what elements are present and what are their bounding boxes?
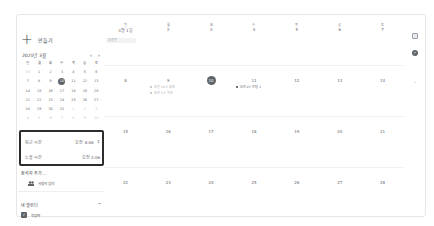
mini-date[interactable]: 25	[68, 97, 79, 103]
mini-date[interactable]: 11	[68, 78, 79, 84]
mini-date[interactable]: 17	[56, 88, 67, 94]
dot-icon[interactable]: •	[414, 80, 416, 85]
date-label[interactable]: 3월 1일	[104, 27, 147, 33]
chevron-up-icon[interactable]: ^	[98, 202, 101, 208]
my-calendars-header[interactable]: 내 캘린더 ^	[21, 202, 101, 208]
day-cell[interactable]: 18	[233, 117, 276, 166]
date-label[interactable]: 21	[361, 129, 404, 134]
mini-date[interactable]: 6	[45, 115, 56, 121]
day-cell[interactable]: 22	[104, 168, 147, 217]
day-cell[interactable]: 금 6	[318, 14, 361, 64]
mini-date[interactable]: 31	[56, 106, 67, 112]
mini-date[interactable]: 22	[33, 97, 44, 103]
prev-month-icon[interactable]: ‹	[90, 52, 92, 58]
mini-date[interactable]: 8	[68, 115, 79, 121]
date-label[interactable]: 3	[190, 27, 233, 32]
day-cell[interactable]: 월 2	[147, 14, 190, 64]
date-label[interactable]: 26	[275, 180, 318, 185]
day-cell[interactable]: 25	[233, 168, 276, 217]
square-icon[interactable]	[412, 33, 418, 39]
mini-date[interactable]: 26	[79, 97, 90, 103]
mini-date[interactable]: 1	[68, 106, 79, 112]
date-label[interactable]: 23	[147, 180, 190, 185]
mini-date[interactable]: 24	[56, 97, 67, 103]
create-button[interactable]: + 만들기	[21, 34, 53, 44]
day-cell[interactable]: 12	[275, 66, 318, 115]
day-cell[interactable]: 19	[275, 117, 318, 166]
checkbox-checked-icon[interactable]: ✓	[21, 212, 27, 218]
mini-date[interactable]: 18	[68, 88, 79, 94]
mini-date[interactable]: 30	[45, 106, 56, 112]
date-label[interactable]: 20	[318, 129, 361, 134]
add-attendees-link[interactable]: 참석자 추가...	[21, 170, 46, 176]
mini-date[interactable]: 14	[22, 88, 33, 94]
day-cell[interactable]: 15	[104, 117, 147, 166]
date-label[interactable]: 11	[233, 78, 276, 83]
date-label[interactable]: 6	[318, 27, 361, 32]
date-label[interactable]: 14	[361, 78, 404, 83]
day-cell[interactable]: 17	[190, 117, 233, 166]
day-cell[interactable]: 11 오후 2시 미팅 1	[233, 66, 276, 115]
mini-today-date[interactable]: 10	[58, 78, 65, 85]
day-cell[interactable]: 27	[318, 168, 361, 217]
mini-date[interactable]: 28	[22, 106, 33, 112]
day-cell[interactable]: 24	[190, 168, 233, 217]
day-cell[interactable]: 토 7	[361, 14, 404, 64]
day-cell[interactable]: 13	[318, 66, 361, 115]
day-cell[interactable]: 14	[361, 66, 404, 115]
mini-date[interactable]: 23	[45, 97, 56, 103]
event-item[interactable]: 오후 2시 미팅 1	[233, 85, 276, 89]
mini-date[interactable]: 29	[33, 106, 44, 112]
mini-date[interactable]: 7	[56, 115, 67, 121]
day-cell[interactable]: 16	[147, 117, 190, 166]
day-cell[interactable]: 26	[275, 168, 318, 217]
date-label[interactable]: 16	[147, 129, 190, 134]
mini-date[interactable]: 2	[79, 106, 90, 112]
date-label[interactable]: 19	[275, 129, 318, 134]
date-label[interactable]: 2	[147, 27, 190, 32]
next-month-icon[interactable]: ›	[98, 52, 100, 58]
mini-date[interactable]: 15	[33, 88, 44, 94]
calendar-item[interactable]: ✓ 작성자	[21, 212, 40, 218]
mini-date[interactable]: 10	[91, 115, 102, 121]
date-label[interactable]: 8	[104, 78, 147, 83]
mini-date[interactable]: 20	[91, 88, 102, 94]
event-item[interactable]: 오전 10시 회의	[147, 85, 190, 89]
date-label[interactable]: 12	[275, 78, 318, 83]
mini-date[interactable]: 6	[91, 69, 102, 75]
date-label[interactable]: 4	[233, 27, 276, 32]
event-chip[interactable]: 공휴일	[106, 38, 136, 43]
date-label[interactable]: 25	[233, 180, 276, 185]
mini-date[interactable]: 5	[79, 69, 90, 75]
date-label[interactable]: 17	[190, 129, 233, 134]
mini-date[interactable]: 1	[33, 69, 44, 75]
time-row-2[interactable]: 노을 시간 오전 2:06	[25, 154, 100, 160]
day-cell[interactable]: 화 3	[190, 14, 233, 64]
mini-date[interactable]: 3	[56, 69, 67, 75]
mini-date[interactable]: 16	[45, 88, 56, 94]
date-label[interactable]: 28	[361, 180, 404, 185]
day-cell[interactable]: 21	[361, 117, 404, 166]
date-label[interactable]: 22	[104, 180, 147, 185]
date-label[interactable]: 7	[361, 27, 404, 32]
mini-date[interactable]: 8	[33, 78, 44, 84]
search-people-button[interactable]: 사람의 검색	[28, 181, 54, 186]
mini-date[interactable]: 4	[22, 115, 33, 121]
mini-date[interactable]: 13	[91, 78, 102, 84]
day-cell[interactable]: 8	[104, 66, 147, 115]
mini-date[interactable]: 28	[22, 69, 33, 75]
date-label[interactable]: 5	[275, 27, 318, 32]
day-cell[interactable]: 9 오전 10시 회의 오후 3시 약속	[147, 66, 190, 115]
mini-date[interactable]: 9	[45, 78, 56, 84]
day-cell[interactable]: 28	[361, 168, 404, 217]
date-label[interactable]: 15	[104, 129, 147, 134]
mini-date[interactable]: 9	[79, 115, 90, 121]
mini-date[interactable]: 2	[45, 69, 56, 75]
date-label[interactable]: 13	[318, 78, 361, 83]
mini-date[interactable]: 5	[33, 115, 44, 121]
mini-date[interactable]: 3	[91, 106, 102, 112]
mini-date[interactable]: 21	[22, 97, 33, 103]
date-label[interactable]: 18	[233, 129, 276, 134]
day-cell[interactable]: 23	[147, 168, 190, 217]
mini-date[interactable]: 19	[79, 88, 90, 94]
